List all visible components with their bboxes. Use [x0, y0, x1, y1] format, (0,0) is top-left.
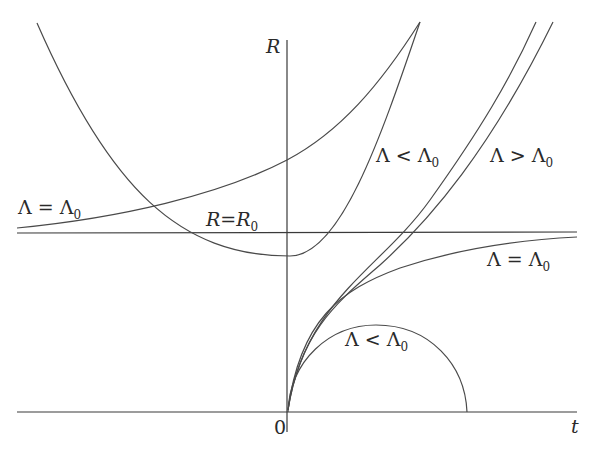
lhs: Λ: [18, 196, 32, 218]
r0-line: [17, 232, 577, 233]
op: =: [38, 196, 54, 218]
rhs: Λ: [418, 144, 432, 166]
lhs: Λ: [345, 328, 359, 350]
rhs: Λ: [60, 196, 74, 218]
r0-op: =: [220, 208, 236, 230]
lhs: Λ: [490, 144, 504, 166]
sub: 0: [542, 260, 550, 274]
r-axis-label: R: [266, 37, 280, 56]
steep-curve-less: [288, 22, 536, 410]
label-left-equal: Λ = Λ0: [18, 198, 81, 217]
r0-rhs: R: [236, 208, 250, 230]
sub: 0: [73, 208, 81, 222]
label-upper-greater: Λ > Λ0: [490, 146, 553, 165]
r0-lhs: R: [206, 208, 220, 230]
r0-sub: 0: [251, 220, 259, 234]
lhs: Λ: [487, 248, 501, 270]
sub: 0: [431, 156, 439, 170]
steep-curve-greater: [288, 22, 553, 410]
sub: 0: [400, 340, 408, 354]
r0-label: R=R0: [206, 210, 258, 229]
rhs: Λ: [529, 248, 543, 270]
op: >: [510, 144, 526, 166]
op: <: [365, 328, 381, 350]
op: =: [507, 248, 523, 270]
lhs: Λ: [376, 144, 390, 166]
label-right-equal: Λ = Λ0: [487, 250, 550, 269]
origin-label: 0: [274, 418, 286, 437]
t-axis-label: t: [571, 417, 579, 436]
label-upper-less: Λ < Λ0: [376, 146, 439, 165]
sub: 0: [545, 156, 553, 170]
rhs: Λ: [387, 328, 401, 350]
rhs: Λ: [532, 144, 546, 166]
phase-diagram: [0, 0, 593, 449]
op: <: [396, 144, 412, 166]
label-arc-less: Λ < Λ0: [345, 330, 408, 349]
